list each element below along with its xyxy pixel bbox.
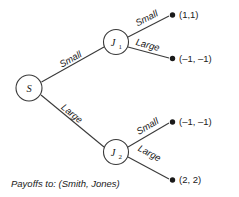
edge-label-root-small: Small [57,48,84,70]
game-tree-svg: Small Large Small Large Small Large S J … [0,0,239,197]
edge-label-j1-small: Small [133,7,160,28]
terminal-node-lower-small: (–1, –1) [170,116,212,127]
terminal-dot-upper-large [170,56,175,61]
payoff-upper-large: (–1, –1) [179,53,212,64]
terminal-dot-lower-small [170,119,175,124]
payoff-lower-small: (–1, –1) [179,116,212,127]
payoff-lower-large: (2, 2) [179,174,201,185]
edge-root-to-j2 [41,95,104,147]
terminal-dot-upper-small [170,12,175,17]
node-label-s: S [26,83,32,94]
node-subscript-j2: 2 [119,153,123,161]
terminal-node-lower-large: (2, 2) [170,174,201,185]
decision-node-j1[interactable]: J 1 [104,30,129,55]
terminal-node-upper-small: (1,1) [170,9,199,20]
payoff-upper-small: (1,1) [179,9,199,20]
edge-label-j2-small: Small [134,115,161,137]
decision-node-j2[interactable]: J 2 [104,140,129,165]
game-tree-figure: Small Large Small Large Small Large S J … [0,0,239,197]
terminal-node-upper-large: (–1, –1) [170,53,212,64]
edge-label-j1-large: Large [135,36,161,53]
node-circle-j1 [104,30,129,55]
edge-j2-to-terminal-large [128,157,169,179]
terminal-dot-lower-large [170,177,175,182]
edge-label-j2-large: Large [136,142,163,163]
node-subscript-j1: 1 [119,43,123,51]
payoffs-caption: Payoffs to: (Smith, Jones) [11,178,120,189]
decision-node-s[interactable]: S [16,75,42,101]
node-circle-j2 [104,140,129,165]
